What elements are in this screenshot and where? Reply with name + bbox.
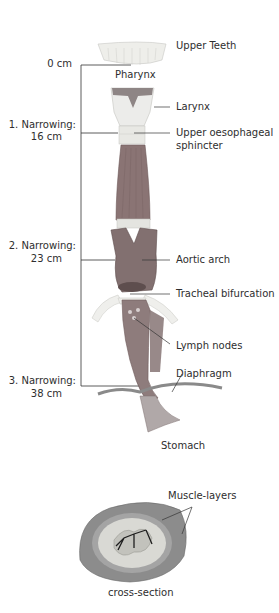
label-tracheal-bifurcation: Tracheal bifurcation xyxy=(176,288,275,300)
label-ues-2: sphincter xyxy=(176,140,223,152)
upper-oesophagus xyxy=(116,145,150,228)
label-lymph-nodes: Lymph nodes xyxy=(176,340,242,352)
larynx xyxy=(111,88,154,144)
label-narrowing-1-cm: 16 cm xyxy=(0,131,62,143)
label-larynx: Larynx xyxy=(176,101,210,113)
label-narrowing-1: 1. Narrowing: xyxy=(0,119,76,131)
label-diaphragm: Diaphragm xyxy=(176,368,232,380)
cross-section xyxy=(80,502,192,582)
label-ues: Upper oesophageal xyxy=(176,127,273,139)
label-muscle-layers: Muscle-layers xyxy=(168,490,237,502)
label-narrowing-3: 3. Narrowing: xyxy=(0,375,76,387)
label-pharynx: Pharynx xyxy=(115,69,156,81)
label-stomach: Stomach xyxy=(161,440,205,452)
label-0cm: 0 cm xyxy=(22,58,72,70)
label-narrowing-2: 2. Narrowing: xyxy=(0,240,76,252)
label-narrowing-3-cm: 38 cm xyxy=(0,388,62,400)
oesophagus-illustration xyxy=(0,0,279,613)
label-narrowing-2-cm: 23 cm xyxy=(0,253,62,265)
label-upper-teeth: Upper Teeth xyxy=(176,40,236,52)
label-aortic-arch: Aortic arch xyxy=(176,254,230,266)
label-cross-section: cross-section xyxy=(108,587,174,599)
stomach xyxy=(140,396,180,432)
upper-teeth xyxy=(98,42,166,65)
diaphragm xyxy=(98,384,222,394)
